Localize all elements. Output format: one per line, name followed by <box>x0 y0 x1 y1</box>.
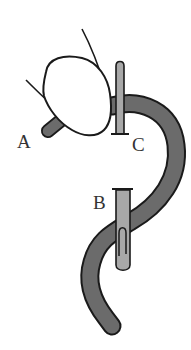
label-a: A <box>17 131 31 152</box>
instrument-b <box>116 190 130 270</box>
anatomical-diagram: A B C <box>0 0 191 350</box>
label-c: C <box>132 134 145 155</box>
label-b: B <box>93 192 106 213</box>
instrument-c <box>116 62 124 135</box>
